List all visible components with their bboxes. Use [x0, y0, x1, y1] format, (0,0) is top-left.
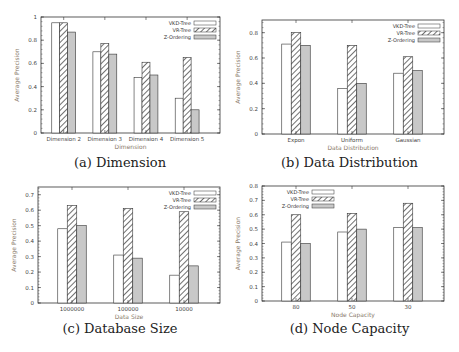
y-tick-label: 0.8	[28, 37, 37, 43]
y-tick-label: 0.8	[249, 30, 258, 36]
x-tick-label: Dimension 4	[129, 136, 164, 142]
bar-vkd-tree	[175, 98, 183, 133]
legend-swatch	[312, 197, 334, 201]
x-tick-label: Dimension 2	[46, 136, 80, 142]
y-tick-label: 0.1	[249, 284, 258, 290]
bar-vr-tree	[101, 44, 109, 133]
caption-data-distribution: (b) Data Distribution	[240, 155, 459, 170]
caption-dimension: (a) Dimension	[0, 155, 240, 170]
bar-vkd-tree	[114, 255, 124, 303]
bar-vr-tree	[347, 213, 357, 301]
y-tick-label: 0	[34, 130, 38, 136]
y-tick-label: 0.3	[25, 254, 34, 260]
legend-swatch	[194, 191, 216, 195]
legend-swatch	[312, 204, 334, 208]
y-tick-label: 0.2	[28, 107, 37, 113]
y-tick-label: 0.2	[25, 269, 34, 275]
chart-data-distribution: 00.20.40.60.8ExponUniformGaussianData Di…	[230, 0, 459, 150]
bar-vkd-tree	[170, 275, 180, 303]
x-tick-label: 100000	[118, 306, 139, 312]
bar-vkd-tree	[338, 232, 348, 301]
bar-z-ordering	[357, 229, 367, 301]
legend-swatch	[418, 38, 440, 42]
y-tick-label: 0.4	[25, 238, 34, 244]
bar-z-ordering	[133, 258, 143, 303]
y-tick-label: 0.1	[25, 285, 34, 291]
bar-vkd-tree	[394, 73, 404, 134]
legend-label: VKD-Tree	[169, 20, 191, 26]
y-tick-label: 0.7	[25, 192, 34, 198]
y-tick-label: 0.6	[28, 60, 37, 66]
legend-swatch	[418, 31, 440, 35]
x-tick-label: 50	[349, 304, 356, 310]
x-tick-label: Expon	[287, 137, 305, 144]
caption-node-capacity: (d) Node Capacity	[240, 321, 459, 336]
legend-label: Z-Ordering	[282, 203, 309, 210]
bar-z-ordering	[191, 110, 199, 133]
bar-vr-tree	[123, 209, 133, 303]
y-tick-label: 0.5	[25, 223, 34, 229]
legend-swatch	[194, 198, 216, 202]
legend-label: VR-Tree	[173, 197, 191, 203]
legend-label: VR-Tree	[397, 30, 415, 36]
bar-vkd-tree	[282, 242, 292, 301]
bar-vr-tree	[291, 33, 301, 134]
y-tick-label: 0	[31, 300, 35, 306]
bar-vr-tree	[291, 215, 301, 301]
bar-z-ordering	[413, 228, 423, 301]
bar-vkd-tree	[134, 77, 142, 133]
bar-vr-tree	[67, 206, 77, 303]
legend-swatch	[194, 21, 216, 25]
y-tick-label: 0.3	[249, 255, 258, 261]
x-tick-label: Gaussian	[395, 137, 421, 143]
y-tick-label: 0.7	[249, 197, 258, 203]
bar-z-ordering	[301, 244, 311, 302]
bar-vkd-tree	[338, 88, 348, 134]
bar-z-ordering	[301, 45, 311, 134]
legend-label: Z-Ordering	[388, 37, 415, 44]
x-tick-label: Uniform	[341, 137, 363, 143]
x-axis-label: Data Distribution	[327, 144, 378, 150]
legend-label: Z-Ordering	[164, 204, 191, 211]
y-axis-label: Average Precision	[234, 217, 242, 271]
legend-label: VR-Tree	[173, 27, 191, 33]
legend-swatch	[312, 190, 334, 194]
bar-z-ordering	[77, 226, 87, 303]
bar-z-ordering	[413, 71, 423, 134]
y-tick-label: 0.5	[249, 226, 258, 232]
y-tick-label: 0.4	[249, 80, 258, 86]
bar-vr-tree	[142, 62, 150, 133]
legend-label: VKD-Tree	[287, 189, 309, 195]
legend-label: Z-Ordering	[164, 34, 191, 41]
y-axis-label: Average Precision	[13, 48, 21, 102]
y-tick-label: 0.8	[249, 183, 258, 189]
bar-vkd-tree	[52, 23, 60, 133]
bar-vkd-tree	[93, 52, 101, 133]
y-tick-label: 0.2	[249, 269, 258, 275]
x-axis-label: Data Size	[115, 313, 144, 320]
y-tick-label: 0.4	[28, 84, 37, 90]
bar-vkd-tree	[394, 228, 404, 301]
legend-swatch	[194, 35, 216, 39]
x-tick-label: 80	[293, 304, 300, 310]
x-axis-label: Node Capacity	[331, 311, 375, 319]
bar-z-ordering	[109, 54, 117, 133]
legend-label: VKD-Tree	[393, 23, 415, 29]
y-tick-label: 0	[255, 298, 259, 304]
y-tick-label: 0.6	[249, 212, 258, 218]
x-tick-label: Dimension 5	[170, 136, 205, 142]
x-tick-label: 30	[405, 304, 412, 310]
legend-label: VR-Tree	[291, 196, 309, 202]
x-tick-label: 10000	[175, 306, 193, 312]
y-tick-label: 0	[255, 131, 259, 137]
y-axis-label: Average Precision	[10, 218, 18, 272]
bar-vkd-tree	[58, 229, 68, 303]
chart-dimension: 00.20.40.60.81Dimension 2Dimension 3Dime…	[0, 0, 230, 150]
bar-vr-tree	[403, 57, 413, 134]
bar-z-ordering	[150, 75, 158, 133]
y-axis-label: Average Precision	[234, 50, 242, 104]
bar-vkd-tree	[282, 44, 292, 134]
bar-vr-tree	[183, 58, 191, 133]
y-tick-label: 1	[34, 14, 38, 20]
bar-vr-tree	[347, 45, 357, 134]
